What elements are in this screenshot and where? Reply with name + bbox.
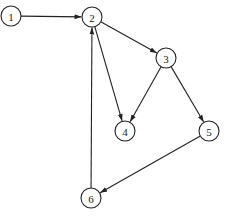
- edge-arrow: [130, 67, 161, 122]
- edge-3-to-5: [171, 67, 204, 122]
- edge-arrow: [95, 27, 122, 121]
- node-3: 3: [156, 48, 176, 68]
- node-4: 4: [115, 121, 135, 141]
- node-2: 2: [82, 7, 102, 27]
- node-5: 5: [199, 121, 219, 141]
- edge-arrow: [21, 16, 82, 17]
- edge-6-to-2: [91, 27, 92, 188]
- edge-arrow: [101, 22, 157, 53]
- node-label: 3: [163, 53, 169, 65]
- node-label: 6: [88, 193, 94, 205]
- node-label: 1: [8, 11, 14, 23]
- node-label: 5: [206, 126, 212, 138]
- edges-layer: [21, 16, 204, 193]
- edge-2-to-4: [95, 27, 122, 121]
- directed-graph: 123456: [0, 0, 229, 222]
- node-6: 6: [81, 188, 101, 208]
- edge-arrow: [171, 67, 204, 122]
- nodes-layer: 123456: [1, 6, 219, 208]
- edge-3-to-4: [130, 67, 161, 122]
- node-1: 1: [1, 6, 21, 26]
- node-label: 4: [122, 126, 128, 138]
- edge-arrow: [100, 136, 200, 193]
- edge-1-to-2: [21, 16, 82, 17]
- edge-2-to-3: [101, 22, 157, 53]
- node-label: 2: [89, 12, 95, 24]
- edge-5-to-6: [100, 136, 200, 193]
- edge-arrow: [91, 27, 92, 188]
